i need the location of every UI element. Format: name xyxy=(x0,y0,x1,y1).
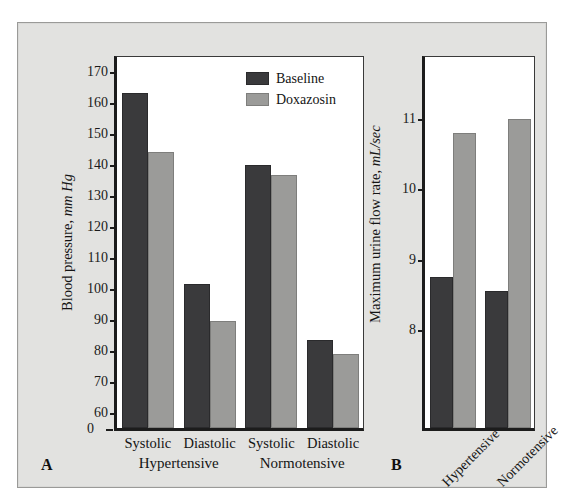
panel-b-x-label-0: Hypertensive xyxy=(439,426,503,490)
y-axis-tick-label: 90 xyxy=(94,312,108,328)
y-axis-tick-label: 170 xyxy=(87,64,108,80)
y-axis-tick-label: 150 xyxy=(87,126,108,142)
bar-baseline-1 xyxy=(485,291,508,428)
figure-root: 60708090100110120130140150160170 Baselin… xyxy=(0,0,561,503)
y-axis-tick-label: 9 xyxy=(409,252,416,268)
bar-baseline-3 xyxy=(307,340,333,428)
legend-label-doxazosin: Doxazosin xyxy=(276,92,336,108)
panel-a-zero-tick xyxy=(106,429,113,431)
panel-a-y-axis-title-plain: Blood pressure, xyxy=(59,220,75,311)
panel-b-y-axis-title-unit: mL/sec xyxy=(367,125,383,166)
y-axis-tick-mark xyxy=(110,134,117,136)
y-axis-tick-mark xyxy=(418,189,425,191)
y-axis-tick-label: 11 xyxy=(403,111,416,127)
y-axis-tick-label: 140 xyxy=(87,157,108,173)
panel-a-letter: A xyxy=(41,456,53,474)
panel-b-plot-area: 891011 xyxy=(422,56,535,431)
bar-baseline-0 xyxy=(430,277,453,428)
y-axis-tick-mark xyxy=(110,258,117,260)
y-axis-tick-mark xyxy=(418,330,425,332)
y-axis-tick-label: 160 xyxy=(87,95,108,111)
legend-swatch-doxazosin xyxy=(246,93,269,106)
panel-a-zero-label: 0 xyxy=(87,421,94,437)
bar-doxazosin-0 xyxy=(453,133,476,428)
legend-item-baseline: Baseline xyxy=(246,69,358,88)
panel-a-x-label-3: Diastolic xyxy=(288,435,378,452)
bar-baseline-0 xyxy=(122,93,148,428)
y-axis-tick-mark xyxy=(110,227,117,229)
y-axis-tick-mark xyxy=(110,103,117,105)
legend-label-baseline: Baseline xyxy=(276,71,324,87)
y-axis-tick-mark xyxy=(110,72,117,74)
y-axis-tick-mark xyxy=(110,289,117,291)
panel-a-x-group-0: Hypertensive xyxy=(119,455,239,472)
panel-b-x-label-1: Normotensive xyxy=(494,423,561,490)
bar-baseline-1 xyxy=(184,284,210,428)
bar-doxazosin-2 xyxy=(271,175,297,428)
panel-a-plot-area: 60708090100110120130140150160170 Baselin… xyxy=(114,56,364,431)
y-axis-tick-mark xyxy=(418,119,425,121)
panel-b-y-axis-title-plain: Maximum urine flow rate, xyxy=(367,170,383,323)
y-axis-tick-mark xyxy=(110,320,117,322)
y-axis-tick-mark xyxy=(110,165,117,167)
panel-b-y-axis-title: Maximum urine flow rate, mL/sec xyxy=(367,125,384,323)
figure-card: 60708090100110120130140150160170 Baselin… xyxy=(17,22,547,488)
bar-doxazosin-1 xyxy=(508,119,531,428)
y-axis-tick-label: 80 xyxy=(94,343,108,359)
bar-doxazosin-0 xyxy=(148,152,174,428)
y-axis-tick-label: 10 xyxy=(402,181,416,197)
bar-doxazosin-1 xyxy=(210,321,236,428)
bar-doxazosin-3 xyxy=(333,354,359,428)
y-axis-tick-mark xyxy=(418,260,425,262)
y-axis-tick-label: 60 xyxy=(94,405,108,421)
panel-a-y-axis-title-unit: mm Hg xyxy=(59,174,75,216)
y-axis-tick-mark xyxy=(110,351,117,353)
y-axis-tick-label: 110 xyxy=(88,250,108,266)
y-axis-tick-label: 100 xyxy=(87,281,108,297)
legend-swatch-baseline xyxy=(246,72,269,85)
legend: BaselineDoxazosin xyxy=(246,69,358,111)
y-axis-tick-mark xyxy=(110,413,117,415)
panel-a-y-axis-title: Blood pressure, mm Hg xyxy=(59,174,76,311)
bar-baseline-2 xyxy=(245,165,271,429)
y-axis-tick-mark xyxy=(110,382,117,384)
y-axis-tick-mark xyxy=(110,196,117,198)
y-axis-tick-label: 8 xyxy=(409,322,416,338)
y-axis-tick-label: 70 xyxy=(94,374,108,390)
y-axis-tick-label: 130 xyxy=(87,188,108,204)
y-axis-tick-label: 120 xyxy=(87,219,108,235)
legend-item-doxazosin: Doxazosin xyxy=(246,90,358,109)
panel-b-letter: B xyxy=(391,456,402,474)
panel-a-x-group-1: Normotensive xyxy=(242,455,362,472)
